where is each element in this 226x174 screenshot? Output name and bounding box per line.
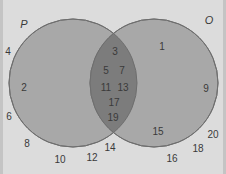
region-number-p-and-o: 7 [119,66,125,76]
region-number-outside: 10 [54,155,65,165]
region-number-outside: 20 [207,130,218,140]
set-label-p: P [20,19,27,30]
region-number-p-and-o: 19 [107,113,118,123]
region-number-outside: 14 [104,143,115,153]
region-number-outside: 16 [166,154,177,164]
set-label-o: O [205,15,214,26]
region-number-p-and-o: 13 [117,83,128,93]
region-number-outside: 8 [24,139,30,149]
region-number-p-and-o: 11 [101,83,111,93]
region-number-p-only: 2 [21,83,27,93]
region-number-outside: 6 [6,112,12,122]
region-number-o-only: 15 [152,127,163,137]
region-number-o-only: 9 [203,84,209,94]
region-number-outside: 12 [86,153,97,163]
region-number-p-and-o: 3 [112,47,118,57]
region-number-o-only: 1 [159,42,165,52]
region-number-outside: 4 [5,47,11,57]
region-number-outside: 18 [192,144,203,154]
region-number-p-and-o: 5 [103,66,109,76]
region-number-p-and-o: 17 [108,98,119,108]
